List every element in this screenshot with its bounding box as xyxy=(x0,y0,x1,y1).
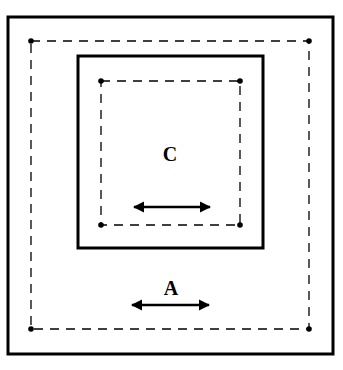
nested-boxes-diagram: C A xyxy=(0,0,343,370)
label-a: A xyxy=(164,277,179,299)
label-c: C xyxy=(163,143,177,165)
